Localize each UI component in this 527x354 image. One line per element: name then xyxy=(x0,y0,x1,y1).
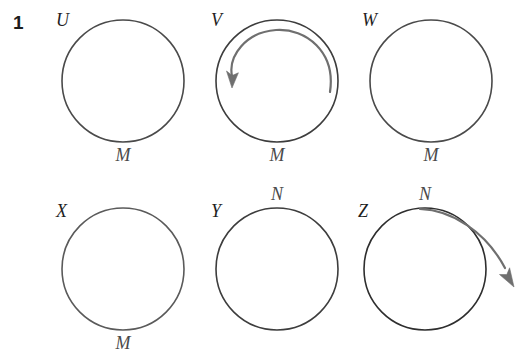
arrow-V-inward xyxy=(227,30,331,92)
panel-label-Y: Y xyxy=(211,202,221,220)
circle-Y xyxy=(216,208,338,330)
circle-U xyxy=(62,20,184,142)
question-number: 1 xyxy=(13,13,24,32)
panel-label-U: U xyxy=(56,11,69,29)
diagram-canvas xyxy=(0,0,527,354)
panel-label-X: X xyxy=(56,202,67,220)
point-label-W-M: M xyxy=(421,146,441,164)
circle-W xyxy=(370,20,492,142)
arrowhead-Z xyxy=(500,268,515,287)
panel-label-Z: Z xyxy=(358,202,368,220)
point-label-U-M: M xyxy=(113,146,133,164)
panel-label-W: W xyxy=(362,11,377,29)
panel-label-V: V xyxy=(211,11,222,29)
figure-container: 1 U V W X Y Z M M M M N N xyxy=(0,0,527,354)
arrow-Z-outward xyxy=(420,209,514,287)
point-label-X-M: M xyxy=(113,334,133,352)
point-label-V-M: M xyxy=(267,146,287,164)
circle-X xyxy=(62,208,184,330)
point-label-Z-N: N xyxy=(415,185,435,203)
point-label-Y-N: N xyxy=(267,185,287,203)
